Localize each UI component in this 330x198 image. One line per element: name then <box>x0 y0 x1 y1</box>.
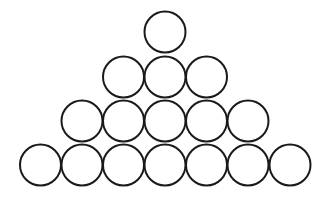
circle <box>228 145 269 186</box>
circle-row-2 <box>103 57 227 98</box>
circle <box>186 145 227 186</box>
circle <box>103 145 144 186</box>
circle <box>270 145 311 186</box>
circle <box>145 12 186 53</box>
circle-triangle-diagram <box>0 0 330 198</box>
circle-row-3 <box>62 101 269 142</box>
circle <box>228 101 269 142</box>
circle <box>20 145 61 186</box>
circle <box>186 101 227 142</box>
circle <box>103 57 144 98</box>
circle <box>145 145 186 186</box>
circle <box>103 101 144 142</box>
circle <box>145 57 186 98</box>
circle <box>186 57 227 98</box>
circle-row-4 <box>20 145 311 186</box>
circle <box>62 101 103 142</box>
circle <box>62 145 103 186</box>
circle-row-1 <box>145 12 186 53</box>
diagram-canvas <box>0 0 330 198</box>
circle <box>145 101 186 142</box>
